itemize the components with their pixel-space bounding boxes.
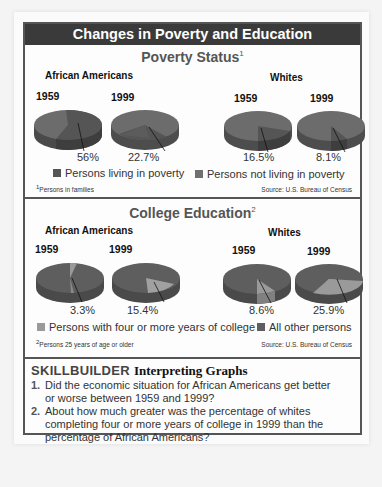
percent-label: 8.1% [316, 151, 341, 163]
pie-w-1999-college [293, 259, 365, 307]
question-2: 2.About how much greater was the percent… [31, 405, 335, 444]
legend-item-not-poverty: Persons not living in poverty [195, 168, 345, 180]
legend-item-poverty: Persons living in poverty [53, 167, 184, 179]
year-label: 1959 [234, 92, 257, 104]
education-section: College Education2 African Americans Whi… [25, 199, 360, 359]
year-label: 1999 [310, 92, 333, 104]
percent-label: 22.7% [128, 151, 159, 163]
pie-w-1959-college [221, 259, 293, 307]
year-label: 1959 [35, 243, 58, 255]
pie-aa-1959-college [34, 258, 106, 306]
question-1: 1.Did the economic situation for African… [31, 379, 335, 405]
legend-swatch [257, 323, 265, 331]
percent-label: 56% [77, 151, 99, 163]
group-label-whites: Whites [270, 72, 303, 83]
figure-frame: Changes in Poverty and Education Poverty… [23, 22, 362, 435]
pie-aa-1999-college [110, 258, 182, 306]
legend-item-college: Persons with four or more years of colle… [37, 321, 255, 333]
poverty-source: Source: U.S. Bureau of Census [261, 186, 352, 193]
figure-title: Changes in Poverty and Education [25, 24, 360, 45]
pie-w-1959-poverty [222, 106, 294, 154]
skillbuilder-section: SKILLBUILDERInterpreting Graphs 1.Did th… [25, 359, 360, 433]
percent-label: 25.9% [313, 304, 344, 316]
education-title: College Education2 [25, 205, 360, 221]
pie-aa-1999-poverty [109, 105, 181, 153]
poverty-title: Poverty Status1 [25, 49, 360, 65]
legend-swatch [195, 170, 203, 178]
group-label-african-americans: African Americans [45, 70, 133, 81]
education-footnote: 2Persons 25 years of age or older [36, 339, 134, 348]
year-label: 1959 [36, 90, 59, 102]
percent-label: 16.5% [243, 151, 274, 163]
legend-item-other: All other persons [257, 321, 352, 333]
pie-aa-1959-poverty [32, 105, 104, 153]
group-label-whites: Whites [268, 227, 301, 238]
legend-swatch [37, 323, 45, 331]
year-label: 1999 [111, 91, 134, 103]
legend-swatch [53, 169, 61, 177]
year-label: 1999 [307, 245, 330, 257]
poverty-section: Poverty Status1 African Americans Whites… [25, 45, 360, 199]
poverty-footnote: 1Persons in families [36, 184, 94, 193]
group-label-african-americans: African Americans [45, 225, 133, 236]
percent-label: 15.4% [127, 304, 158, 316]
skillbuilder-heading: SKILLBUILDERInterpreting Graphs [31, 363, 247, 379]
year-label: 1959 [232, 244, 255, 256]
percent-label: 8.6% [249, 304, 274, 316]
percent-label: 3.3% [70, 304, 95, 316]
year-label: 1999 [109, 243, 132, 255]
education-source: Source: U.S. Bureau of Census [261, 341, 352, 348]
pie-w-1999-poverty [295, 106, 367, 154]
